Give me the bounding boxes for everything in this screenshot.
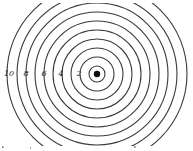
ring-label: 2 [75, 69, 81, 78]
ring-label: 4 [57, 69, 63, 78]
concentric-rings-diagram: 108642 [0, 0, 193, 151]
point-source-dot [94, 71, 100, 77]
ring-label: 8 [23, 69, 28, 78]
ring-label: 10 [4, 69, 14, 78]
wave-rings-figure: 108642 [0, 0, 193, 151]
ring-labels: 108642 [4, 69, 82, 78]
ring-label: 6 [41, 69, 46, 78]
scan-specks [2, 146, 136, 149]
